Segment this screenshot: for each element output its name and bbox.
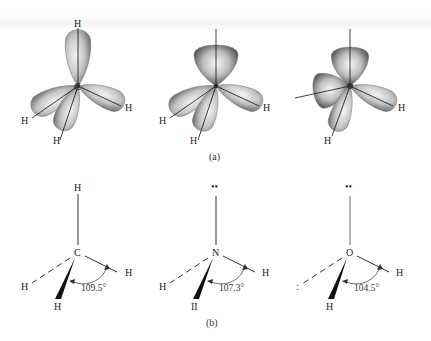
atom-label-h-right: H <box>263 102 270 113</box>
orbital-geometry-figure: C H H H H H H H (a) H H <box>0 0 431 341</box>
arrowhead-icon <box>342 279 348 284</box>
ammonia-orbital-diagram <box>165 29 266 140</box>
atom-label-h-right: H <box>396 267 403 278</box>
atom-label-h-bottom: H <box>190 135 197 146</box>
atom-label-n: N <box>212 247 219 258</box>
atom-label-h-right: H <box>125 267 132 278</box>
atom-label-h-bottom: H <box>324 135 331 146</box>
atom-label-c: C <box>74 247 81 258</box>
nitrogen-nucleus <box>214 84 218 88</box>
atom-label-o: O <box>346 247 353 258</box>
atom-label-h-bottom: H <box>54 301 61 312</box>
water-orbital-diagram <box>295 29 400 136</box>
atom-label-h-bottom: H <box>326 301 333 312</box>
atom-label-h-bottom: II <box>191 301 198 312</box>
atom-label-h-right: H <box>398 102 405 113</box>
oxygen-nucleus <box>347 83 353 89</box>
bond-angle-label: 104.5° <box>354 283 379 293</box>
wedge-bond <box>55 258 75 299</box>
arrowhead-icon <box>242 264 248 270</box>
angle-arc <box>71 266 107 284</box>
atom-label-h-right: H <box>262 267 269 278</box>
lone-pair-top: •• <box>345 181 352 192</box>
angle-arc <box>344 266 380 284</box>
atom-label-h-top: H <box>74 18 81 29</box>
panel-a-caption: (a) <box>209 151 220 163</box>
atom-label-h-left: H <box>21 115 28 126</box>
atom-label-h-right: H <box>125 102 132 113</box>
angle-arc <box>209 266 245 284</box>
arrowhead-icon <box>69 279 75 284</box>
arrowhead-icon <box>104 264 110 270</box>
panel-b-caption: (b) <box>206 317 218 329</box>
atom-label-c: C <box>74 81 81 92</box>
atom-label-h-top: H <box>74 182 81 193</box>
lone-pair-left: : <box>296 281 299 292</box>
atom-label-h-left: H <box>159 115 166 126</box>
atom-label-h-left: H <box>159 281 166 292</box>
bond-angle-label: 109.5° <box>81 283 106 293</box>
wedge-bond <box>193 258 213 299</box>
arrowhead-icon <box>207 279 213 284</box>
background-band <box>0 14 431 32</box>
wedge-bond <box>328 258 347 299</box>
lone-pair-top: •• <box>211 181 218 192</box>
atom-label-h-bottom: H <box>53 135 60 146</box>
atom-label-h-left: H <box>21 281 28 292</box>
bond-angle-label: 107.3° <box>219 283 244 293</box>
